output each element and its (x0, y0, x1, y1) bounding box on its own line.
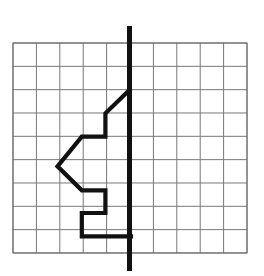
grid-figure (0, 0, 264, 276)
figure-canvas (0, 0, 264, 276)
